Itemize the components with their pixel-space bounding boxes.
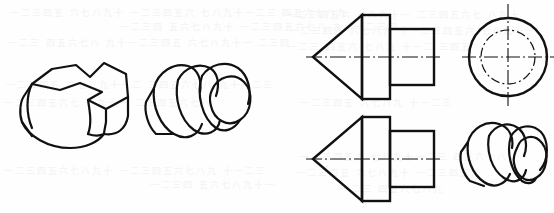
ghost-text-line: 一二三四 五六七八九十一 xyxy=(150,178,276,191)
block-front-face-fold xyxy=(88,100,90,134)
ghost-text-line: 一二三四五 六七八九十 一二三四五六 七八九十一二三 四五六七八九 xyxy=(10,6,348,19)
ghost-text-line: 一二三 四五六七八 九十一二三四五 六七八九十一 二三四 xyxy=(8,36,291,49)
scanned-page: 一二三四五 六七八九十 一二三四五六 七八九十一二三 四五六七八九 一二三四 五… xyxy=(0,0,554,213)
front-cylinder-end-face xyxy=(210,76,250,123)
front-cylinder-end-face xyxy=(514,137,547,180)
figure-iso-stepped-boss xyxy=(456,116,550,202)
figure-iso-faceted-block xyxy=(14,52,142,152)
front-cylinder-lower-silhouette xyxy=(200,76,216,128)
ghost-text-line: 一二三四五六七八九十 一二三四五六七八九 十一二三 xyxy=(4,164,267,177)
block-bottom-back-edge xyxy=(88,134,104,136)
block-top-face xyxy=(32,63,128,109)
figure-front-view-top xyxy=(306,8,440,108)
figure-side-view-circle xyxy=(462,2,554,110)
block-right-fold xyxy=(104,109,106,134)
figure-front-view-bottom xyxy=(306,112,440,208)
figure-iso-stepped-cone-cylinder xyxy=(140,50,260,150)
taper-left-face xyxy=(145,88,174,134)
